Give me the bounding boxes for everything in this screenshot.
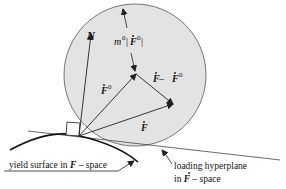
svg-text:–: – (158, 73, 165, 84)
svg-text:0: 0 (179, 71, 183, 79)
svg-text:in F – space: in F – space (174, 174, 221, 184)
f-label: F (140, 121, 148, 133)
right-angle-marker (66, 122, 80, 136)
yield-surface-label: yield surface in F – space (9, 160, 107, 170)
svg-text:|: | (126, 36, 128, 47)
normal-label: N (86, 29, 96, 41)
svg-text:m: m (114, 36, 121, 47)
svg-text:F: F (129, 36, 137, 47)
hyperplane-label-pointer (162, 150, 172, 164)
svg-text:F: F (171, 73, 179, 84)
svg-text:F: F (140, 122, 148, 133)
svg-text:0: 0 (108, 83, 112, 91)
svg-text:loading hyperplane: loading hyperplane (174, 161, 247, 171)
svg-text:F: F (100, 85, 108, 96)
svg-text:yield surface in F – space: yield surface in F – space (9, 160, 107, 170)
svg-text:|: | (141, 36, 143, 47)
hyperplane-label: loading hyperplane in F – space (174, 161, 247, 184)
yield-surface-diagram: N m 0 | F 0 | F 0 F – F 0 F yield surfac… (0, 0, 286, 189)
